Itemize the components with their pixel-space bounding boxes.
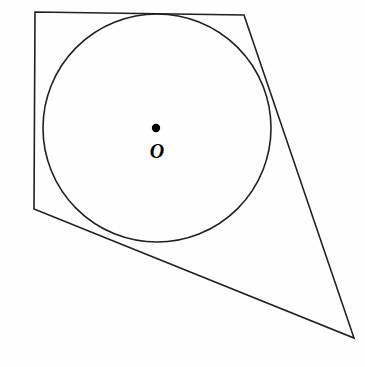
circle-center-dot (152, 124, 160, 132)
circumscribed-quadrilateral (34, 12, 354, 338)
center-label-o: O (150, 140, 164, 162)
geometry-figure-canvas: O (0, 0, 365, 367)
figure-svg: O (0, 0, 365, 367)
